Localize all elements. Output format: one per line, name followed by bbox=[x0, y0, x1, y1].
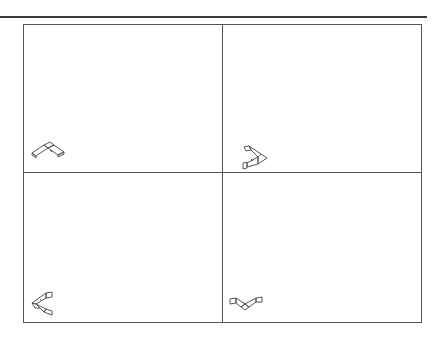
viewport-bottom-left[interactable] bbox=[24, 173, 222, 321]
viewport-top-right[interactable] bbox=[223, 25, 421, 172]
top-rule-divider bbox=[0, 16, 427, 18]
view-orientation-triad-icon bbox=[30, 141, 66, 161]
view-orientation-triad-icon bbox=[30, 291, 56, 317]
view-orientation-triad-icon bbox=[229, 296, 263, 314]
viewport-top-left[interactable] bbox=[24, 25, 222, 172]
viewport-bottom-right[interactable] bbox=[223, 173, 421, 321]
view-orientation-triad-icon bbox=[241, 145, 269, 171]
